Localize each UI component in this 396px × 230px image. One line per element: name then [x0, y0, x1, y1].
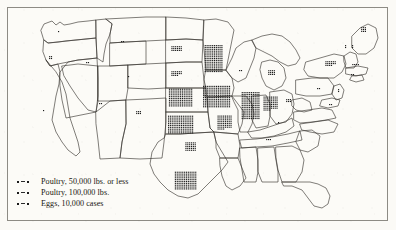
state-illinois — [232, 96, 254, 132]
dot-cluster-oregon — [49, 56, 52, 59]
dot-cluster-maryland — [329, 104, 332, 105]
state-maine — [352, 24, 378, 54]
poultry-egg-production-map: Poultry, 50,000 lbs. or less Poultry, 10… — [0, 0, 396, 230]
legend-symbol-poultry-high — [16, 192, 41, 194]
dot-cluster-vermont — [345, 45, 346, 48]
dot-cluster-oklahoma — [185, 142, 195, 151]
state-arizona — [96, 100, 126, 159]
state-new-mexico — [120, 98, 166, 159]
state-wyoming — [110, 41, 146, 66]
dot-cluster-kentucky — [278, 122, 279, 123]
dot-cluster-connecticut — [351, 74, 354, 75]
state-maryland — [320, 98, 340, 108]
state-new-york — [304, 54, 346, 78]
dot-cluster-new-york — [325, 61, 335, 66]
dot-cluster-minnesota — [205, 45, 223, 72]
state-north-carolina — [300, 120, 338, 134]
dot-cluster-kansas — [168, 116, 193, 134]
dot-cluster-washington — [58, 31, 59, 32]
state-north-dakota — [166, 17, 204, 40]
dot-cluster-wisconsin — [239, 70, 242, 71]
state-alabama — [258, 147, 278, 182]
legend-item: Eggs, 10,000 cases — [16, 198, 216, 209]
dot-cluster-north-dakota — [171, 46, 181, 51]
legend-label: Poultry, 100,000 lbs. — [41, 187, 109, 198]
dot-cluster-michigan — [268, 70, 275, 75]
state-california — [46, 60, 80, 156]
legend-symbol-eggs — [16, 203, 41, 205]
state-florida — [282, 182, 330, 208]
dot-cluster-wyoming — [128, 76, 129, 77]
state-utah — [98, 65, 128, 101]
dot-cluster-idaho — [86, 62, 89, 63]
state-idaho — [96, 19, 112, 62]
dot-cluster-illinois — [242, 92, 260, 119]
state-mississippi — [240, 147, 258, 182]
state-montana — [106, 17, 166, 43]
state-nevada — [62, 64, 98, 112]
legend-item: Poultry, 50,000 lbs. or less — [16, 176, 216, 187]
dot-cluster-utah — [99, 103, 102, 104]
state-nevada-idaho-fill — [60, 58, 98, 118]
state-vermont-new-hampshire — [344, 52, 358, 68]
dot-cluster-maine — [361, 27, 366, 32]
dot-cluster-tennessee — [266, 139, 271, 140]
state-oklahoma — [166, 112, 214, 134]
state-georgia — [276, 146, 304, 182]
legend-symbol-poultry-low — [16, 181, 41, 183]
dot-cluster-california — [43, 110, 44, 111]
legend-label: Eggs, 10,000 cases — [41, 198, 104, 209]
state-iowa — [204, 70, 234, 97]
state-massachusetts — [346, 66, 368, 76]
dot-cluster-colorado — [136, 111, 141, 114]
dot-cluster-massachusetts — [352, 64, 359, 65]
legend-item: Poultry, 100,000 lbs. — [16, 187, 216, 198]
dot-cluster-missouri — [218, 116, 232, 130]
dot-cluster-new-jersey — [338, 89, 339, 92]
map-legend: Poultry, 50,000 lbs. or less Poultry, 10… — [16, 176, 216, 209]
dot-cluster-ohio — [286, 99, 291, 102]
state-washington — [41, 20, 96, 43]
legend-label: Poultry, 50,000 lbs. or less — [41, 176, 128, 187]
dot-cluster-pennsylvania — [317, 88, 320, 89]
dot-cluster-nebraska — [169, 89, 192, 107]
state-colorado — [128, 63, 166, 89]
dot-cluster-indiana — [264, 97, 278, 111]
state-louisiana — [220, 158, 246, 190]
state-pennsylvania — [296, 78, 334, 96]
state-kansas — [166, 88, 208, 112]
dot-cluster-south-dakota — [171, 71, 181, 76]
